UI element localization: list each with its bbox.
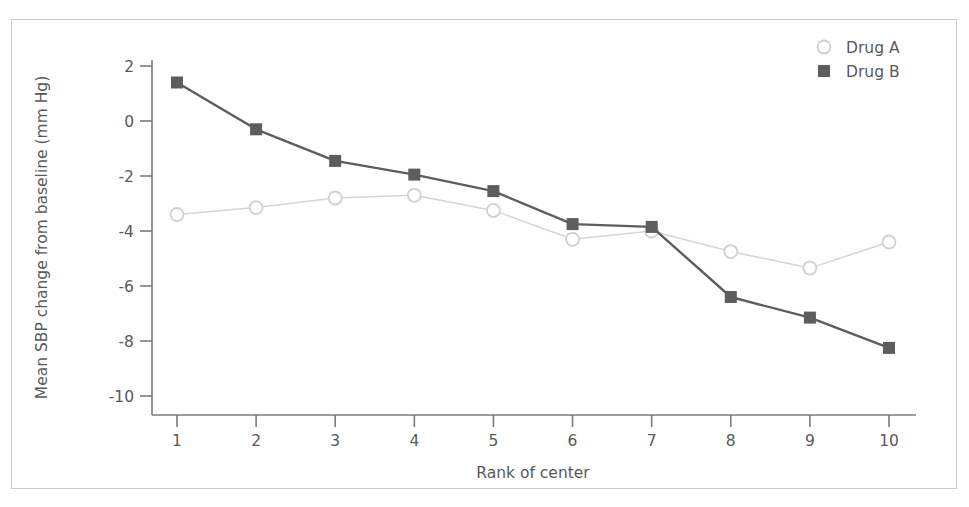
y-tick-label: -2 — [119, 168, 134, 186]
y-tick-label: 0 — [124, 113, 134, 131]
data-point-marker — [724, 245, 737, 258]
data-point-marker — [250, 201, 263, 214]
series-line — [177, 195, 889, 268]
data-point-marker — [408, 189, 421, 202]
legend: Drug ADrug B — [818, 39, 900, 81]
x-tick-label: 6 — [568, 432, 578, 450]
y-tick-label: -4 — [119, 223, 134, 241]
data-point-marker — [171, 77, 183, 89]
x-tick-label: 1 — [172, 432, 182, 450]
series-line — [177, 83, 889, 348]
y-tick-label: -6 — [119, 278, 134, 296]
data-point-marker — [803, 262, 816, 275]
chart-canvas: 20-2-4-6-8-1012345678910Rank of centerMe… — [0, 0, 969, 507]
y-tick-label: -8 — [119, 333, 134, 351]
x-tick-label: 9 — [805, 432, 815, 450]
data-point-marker — [487, 185, 499, 197]
data-point-marker — [883, 342, 895, 354]
data-point-marker — [329, 192, 342, 205]
data-point-marker — [250, 123, 262, 135]
series-drug-a — [171, 189, 896, 275]
data-point-marker — [567, 218, 579, 230]
y-tick-label: -10 — [109, 388, 134, 406]
data-point-marker — [171, 208, 184, 221]
y-tick-label: 2 — [124, 58, 134, 76]
x-tick-label: 4 — [409, 432, 419, 450]
legend-marker-drug-b — [818, 65, 830, 77]
x-tick-label: 8 — [726, 432, 736, 450]
x-tick-label: 10 — [879, 432, 899, 450]
data-point-marker — [725, 291, 737, 303]
legend-label-drug-a: Drug A — [846, 39, 900, 57]
data-point-marker — [487, 204, 500, 217]
data-point-marker — [883, 236, 896, 249]
data-point-marker — [329, 155, 341, 167]
legend-label-drug-b: Drug B — [846, 63, 900, 81]
data-point-marker — [408, 169, 420, 181]
y-axis-title: Mean SBP change from baseline (mm Hg) — [33, 76, 51, 399]
x-tick-label: 2 — [251, 432, 261, 450]
x-axis-title: Rank of center — [476, 464, 590, 482]
x-tick-label: 3 — [330, 432, 340, 450]
legend-marker-drug-a — [818, 41, 831, 54]
figure-root: 20-2-4-6-8-1012345678910Rank of centerMe… — [0, 0, 969, 507]
y-axis-title-group: Mean SBP change from baseline (mm Hg) — [33, 76, 51, 399]
data-point-marker — [566, 233, 579, 246]
x-tick-label: 5 — [489, 432, 499, 450]
data-point-marker — [646, 221, 658, 233]
x-tick-label: 7 — [647, 432, 657, 450]
series-drug-b — [171, 77, 895, 354]
data-point-marker — [804, 312, 816, 324]
